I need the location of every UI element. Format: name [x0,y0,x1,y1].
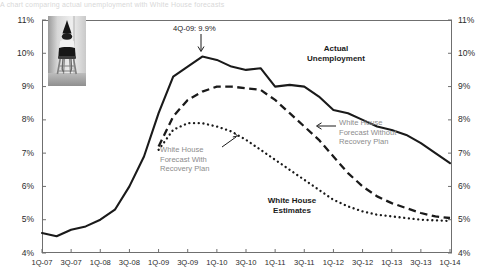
x-axis-label-3Q-08: 3Q-08 [119,258,140,267]
forecast-with-recovery-plan-label: White House Forecast With Recovery Plan [160,145,209,174]
y-axis-label-left-9: 9% [22,82,34,91]
forecast-without-recovery-plan-label: White House Forecast Without Recovery Pl… [339,118,396,147]
forecast-with-label-line2: Forecast With [160,155,209,165]
y-axis-label-left-10: 10% [17,49,34,58]
cutoff-header-text: A chart comparing actual unemployment wi… [0,0,495,9]
chart-page: A chart comparing actual unemployment wi… [0,0,495,277]
x-axis-label-1Q-08: 1Q-08 [90,258,111,267]
x-axis-label-1Q-12: 1Q-12 [323,258,344,267]
forecast-without-label-line2: Forecast Without [339,128,396,138]
x-axis-label-1Q-13: 1Q-13 [381,258,402,267]
x-axis-label-3Q-07: 3Q-07 [61,258,82,267]
y-axis-label-left-5: 5% [22,215,34,224]
x-axis-label-1Q-11: 1Q-11 [265,258,286,267]
y-axis-label-left-8: 8% [22,115,34,124]
y-axis-label-left-11: 11% [18,16,34,25]
y-axis-label-right-4: 4% [458,249,470,258]
x-axis-label-3Q-12: 3Q-12 [352,258,373,267]
x-axis-label-3Q-11: 3Q-11 [294,258,315,267]
white-house-estimates-line2: Estimates [248,206,336,216]
actual-unemployment-label-line2: Unemployment [290,54,382,64]
forecast-with-label-line1: White House [160,145,209,155]
peak-annotation-label: 4Q-09: 9.9% [173,24,216,34]
y-axis-label-left-4: 4% [22,249,34,258]
x-axis-label-1Q-07: 1Q-07 [31,258,52,267]
actual-unemployment-label-line1: Actual [290,44,382,54]
x-axis-label-1Q-10: 1Q-10 [206,258,227,267]
forecast-without-label-line3: Recovery Plan [339,137,396,147]
x-axis-label-3Q-10: 3Q-10 [235,258,256,267]
white-house-estimates-line1: White House [248,196,336,206]
dunce-cap-photo [48,16,86,86]
y-axis-label-right-11: 11% [458,16,474,25]
x-axis-label-1Q-14: 1Q-14 [439,258,460,267]
white-house-estimates-label: White House Estimates [248,196,336,216]
y-axis-label-right-5: 5% [458,215,470,224]
y-axis-label-left-6: 6% [22,182,34,191]
y-axis-label-right-8: 8% [458,115,470,124]
y-axis-label-right-9: 9% [458,82,470,91]
y-axis-label-left-7: 7% [22,149,34,158]
actual-unemployment-label: Actual Unemployment [290,44,382,64]
y-axis-label-right-6: 6% [458,182,470,191]
x-axis-label-3Q-09: 3Q-09 [177,258,198,267]
x-axis-label-1Q-09: 1Q-09 [148,258,169,267]
forecast-with-label-line3: Recovery Plan [160,164,209,174]
forecast-without-label-line1: White House [339,118,396,128]
y-axis-label-right-7: 7% [458,149,470,158]
y-axis-label-right-10: 10% [458,49,475,58]
x-axis-label-3Q-13: 3Q-13 [410,258,431,267]
